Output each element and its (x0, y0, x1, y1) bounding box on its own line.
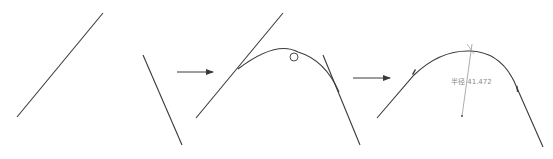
tangent-marker-icon (516, 86, 519, 92)
line-a (196, 13, 283, 118)
step-2-tangent-arc (196, 13, 360, 145)
fillet-polyline (377, 51, 543, 147)
step-3-fillet-result (377, 44, 543, 147)
line-b (323, 55, 360, 145)
cursor-circle-icon (290, 53, 298, 61)
fillet-arc (238, 48, 339, 92)
line-b (143, 55, 182, 145)
arc-center-point (461, 115, 463, 117)
radius-dimension-label: 半径 41.472 (451, 76, 492, 86)
step-1-lines (17, 13, 182, 145)
line-a (17, 13, 103, 117)
